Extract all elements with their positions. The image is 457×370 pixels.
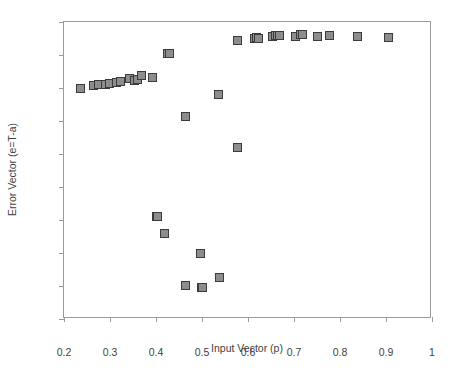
y-axis-tick [59,253,64,254]
data-point-marker [298,30,307,39]
y-axis-tick [59,121,64,122]
x-axis-tick [294,317,295,322]
data-point-marker [196,249,205,258]
data-point-marker [137,71,146,80]
y-axis-tick [59,88,64,89]
data-point-marker [130,76,139,85]
scatter-plot-figure: Error Vector (e=T-a) Input Vector (p) 0-… [0,0,457,370]
data-point-marker [163,49,172,58]
data-point-marker [105,79,114,88]
data-point-marker [181,112,190,121]
data-point-marker [197,283,206,292]
data-point-marker [273,31,282,40]
y-axis-tick [59,55,64,56]
data-point-marker [181,281,190,290]
y-axis-tick [59,286,64,287]
data-point-marker [89,81,98,90]
data-point-marker [148,73,157,82]
data-point-marker [76,84,85,93]
data-point-marker [165,49,174,58]
data-point-marker [233,143,242,152]
data-point-marker [384,33,393,42]
x-axis-tick [110,317,111,322]
data-point-marker [271,31,280,40]
data-point-marker [268,32,277,41]
x-axis-tick-label: 1 [402,347,457,358]
data-point-marker [198,283,207,292]
x-axis-tick [386,317,387,322]
data-point-marker [254,34,263,43]
data-point-marker [252,33,261,42]
data-point-marker [214,90,223,99]
data-point-marker [116,77,125,86]
x-axis-tick [156,317,157,322]
data-point-marker [125,74,134,83]
data-point-marker [233,36,242,45]
data-point-marker [153,212,162,221]
data-point-marker [94,80,103,89]
data-point-marker [152,212,161,221]
x-axis-tick [248,317,249,322]
data-point-marker [215,273,224,282]
data-point-marker [291,32,300,41]
x-axis-tick [432,317,433,322]
x-axis-tick [202,317,203,322]
y-axis-tick [59,154,64,155]
y-axis-tick [59,187,64,188]
y-axis-tick [59,220,64,221]
data-point-marker [313,32,322,41]
y-axis-tick [59,22,64,23]
plot-area: 0-0.01-0.02-0.03-0.04-0.05-0.06-0.07-0.0… [63,21,431,318]
data-point-marker [160,229,169,238]
x-axis-tick [340,317,341,322]
data-point-marker [275,31,284,40]
y-axis-title: Error Vector (e=T-a) [5,21,19,318]
data-point-marker [101,80,110,89]
data-point-marker [250,34,259,43]
data-point-marker [296,30,305,39]
data-points-layer [64,22,430,317]
data-point-marker [133,75,142,84]
data-point-marker [353,32,362,41]
data-point-marker [112,78,121,87]
data-point-marker [325,31,334,40]
x-axis-tick [64,317,65,322]
